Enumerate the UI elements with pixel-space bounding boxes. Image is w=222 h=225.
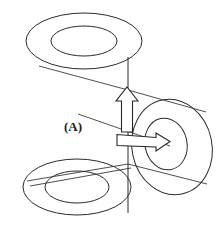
top-left-annulus-outer-ellipse <box>26 13 142 69</box>
bottom-left-annulus <box>23 159 131 215</box>
upper-right-tangent-line <box>128 90 206 112</box>
lower-left-tangent-line-outer <box>27 164 128 181</box>
patent-figure-drawing: (A) <box>0 0 222 225</box>
right-annulus-outer-ellipse <box>123 92 221 203</box>
label-A: (A) <box>64 119 82 134</box>
bottom-left-annulus-inner-ellipse <box>45 171 109 203</box>
figure-canvas: (A) <box>0 0 222 225</box>
bottom-left-annulus-outer-ellipse <box>23 159 131 215</box>
horizontal-right-arrow-outline <box>117 133 170 151</box>
horizontal-right-arrow <box>117 133 170 151</box>
top-left-annulus-inner-ellipse <box>51 26 117 56</box>
upper-left-tangent-line <box>39 66 128 90</box>
right-annulus <box>123 92 221 203</box>
top-left-annulus <box>26 13 142 69</box>
